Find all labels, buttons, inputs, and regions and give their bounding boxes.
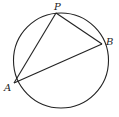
point-label-a: A <box>3 82 11 93</box>
point-label-p: P <box>53 1 61 12</box>
segment-pb <box>56 13 102 44</box>
inscribed-triangle-diagram: P B A <box>0 0 119 117</box>
point-label-b: B <box>105 36 113 47</box>
segment-ap <box>14 13 56 83</box>
segment-ab <box>14 44 102 83</box>
